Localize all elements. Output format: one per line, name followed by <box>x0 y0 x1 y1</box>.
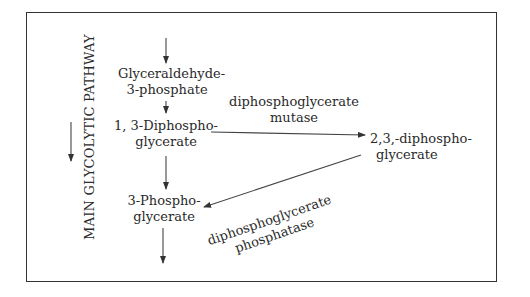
mutase-arrow <box>211 132 365 135</box>
node-line: glycerate <box>124 209 204 225</box>
node-line: Glyceraldehyde- <box>118 66 216 82</box>
node-line: glycerate <box>370 147 480 163</box>
node-line: 3-phosphate <box>118 82 216 98</box>
node-glyceraldehyde-3-phosphate: Glyceraldehyde- 3-phosphate <box>118 66 216 98</box>
node-line: glycerate <box>112 134 220 150</box>
node-1-3-diphosphoglycerate: 1, 3-Diphospho- glycerate <box>112 118 220 150</box>
enzyme-line: mutase <box>228 110 360 126</box>
enzyme-diphosphoglycerate-mutase: diphosphoglycerate mutase <box>228 94 360 126</box>
main-glycolytic-pathway-label: MAIN GLYCOLYTIC PATHWAY <box>82 34 97 240</box>
node-line: 2,3,-diphospho- <box>370 131 480 147</box>
node-3-phosphoglycerate: 3-Phospho- glycerate <box>124 193 204 225</box>
node-line: 3-Phospho- <box>124 193 204 209</box>
enzyme-line: diphosphoglycerate <box>228 94 360 110</box>
phosphatase-arrow <box>204 155 361 207</box>
node-2-3-diphosphoglycerate: 2,3,-diphospho- glycerate <box>370 131 480 163</box>
node-line: 1, 3-Diphospho- <box>112 118 220 134</box>
